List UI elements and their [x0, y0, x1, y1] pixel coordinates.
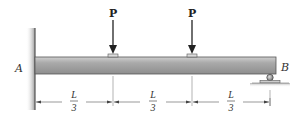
beam-diagram: A P P B [0, 0, 306, 122]
dim-denominator-1: 3 [71, 102, 77, 113]
dim-numerator-2: L [149, 89, 156, 100]
dimension-label-3: L 3 [227, 89, 235, 113]
load-label-1: P [109, 7, 117, 20]
beam-body [35, 57, 276, 74]
label-a: A [14, 62, 23, 75]
load-pad-2 [187, 54, 197, 57]
label-b: B [280, 61, 289, 74]
point-load-1: P [108, 7, 118, 57]
dimension-label-1: L 3 [70, 89, 78, 113]
dim-numerator-3: L [227, 89, 234, 100]
ground-shading [250, 83, 290, 87]
dim-denominator-2: 3 [150, 102, 156, 113]
dimension-label-2: L 3 [149, 89, 157, 113]
roller-support [250, 74, 290, 87]
beam [35, 57, 276, 74]
fixed-wall-support [26, 28, 35, 110]
load-pad-1 [108, 54, 118, 57]
wall-shading [26, 28, 35, 110]
extension-lines [113, 76, 270, 106]
arrow-down-icon [188, 45, 196, 54]
roller-base-plate [260, 81, 280, 84]
dim-numerator-1: L [70, 89, 77, 100]
arrow-down-icon [109, 45, 117, 54]
dim-denominator-3: 3 [228, 102, 234, 113]
load-label-2: P [188, 7, 196, 20]
point-load-2: P [187, 7, 197, 57]
roller-icon [267, 74, 273, 80]
